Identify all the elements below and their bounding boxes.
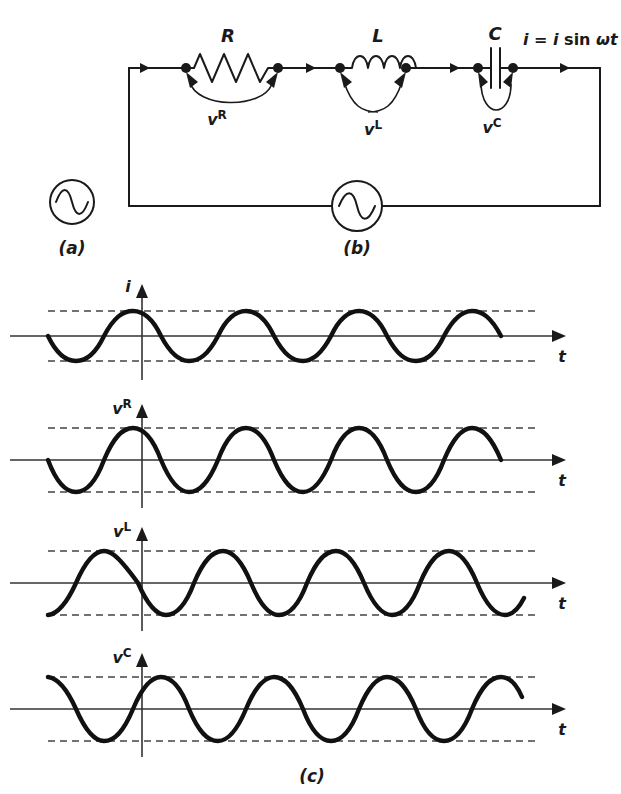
current-equation: i = i sin ωt <box>523 30 619 49</box>
plot-vr-x-label: t <box>558 471 567 490</box>
plot-vc-y-label-base: v <box>112 648 123 667</box>
current-arrow-4 <box>560 63 570 73</box>
ac-source-symbol <box>50 180 94 224</box>
plot-vc-y-label-sup: C <box>123 646 132 660</box>
vl-arc-left <box>344 82 378 112</box>
node-c-left <box>473 63 483 73</box>
figure-root: (a) <box>0 0 621 794</box>
resistor-component: R <box>186 25 278 82</box>
plot-vl-y-arrowhead <box>136 527 148 541</box>
equation-time: t <box>610 30 619 49</box>
plot-vl-y-label: vL <box>113 520 131 541</box>
plot-v-resistor: vR t <box>10 397 567 508</box>
panel-a-label: (a) <box>58 238 85 258</box>
plot-v-capacitor: vC t <box>10 646 567 757</box>
plot-vr-y-label-base: v <box>112 399 123 418</box>
vr-label-sup: R <box>218 108 227 122</box>
plot-current-y-arrowhead <box>136 284 148 298</box>
plot-vl-y-label-sup: L <box>123 520 131 534</box>
node-l-left <box>335 63 345 73</box>
node-r-left <box>181 63 191 73</box>
current-arrow-1 <box>140 63 150 73</box>
panel-c-label: (c) <box>299 766 325 786</box>
plot-vc-x-arrowhead <box>552 703 566 715</box>
vr-arrowhead-right <box>266 72 278 88</box>
plot-current-x-label: t <box>558 347 567 366</box>
plot-vr-y-arrowhead <box>136 404 148 418</box>
capacitor-label: C <box>488 23 502 44</box>
vc-label: vC <box>482 116 501 137</box>
vr-label-base: v <box>207 110 218 129</box>
plot-current-x-arrowhead <box>552 330 566 342</box>
equation-omega: ω <box>596 30 610 49</box>
plot-vl-x-label: t <box>558 594 567 613</box>
plot-current-y-label: i <box>125 277 131 296</box>
current-arrow-2 <box>306 63 316 73</box>
panel-b: R L C <box>129 23 619 258</box>
voltage-arc-vc: vC <box>478 72 513 137</box>
vc-label-sup: C <box>493 116 502 130</box>
plot-current: i t <box>10 277 567 380</box>
equation-equals: = <box>534 30 547 49</box>
vl-label: vL <box>364 118 382 139</box>
plot-vr-x-arrowhead <box>552 454 566 466</box>
voltage-arc-vr: vR <box>186 72 278 129</box>
plot-vl-x-arrowhead <box>552 577 566 589</box>
vl-label-sup: L <box>374 118 382 132</box>
inductor-component: L <box>340 25 416 68</box>
vr-label: vR <box>207 108 227 129</box>
vl-arrowhead-left <box>340 72 352 88</box>
plot-v-inductor: vL t <box>10 520 567 631</box>
voltage-arc-vl: vL <box>340 72 406 139</box>
plot-vr-y-label-sup: R <box>123 397 132 411</box>
inductor-label: L <box>372 25 383 46</box>
vc-arrowhead-left <box>478 72 488 88</box>
vl-arc-right <box>368 82 402 112</box>
plot-vc-y-label: vC <box>112 646 131 667</box>
node-l-right <box>401 63 411 73</box>
panel-a: (a) <box>50 180 94 258</box>
panel-c: i t vR t <box>10 277 567 786</box>
rlc-figure: (a) <box>0 0 621 794</box>
vr-arrowhead-left <box>186 72 198 88</box>
plot-vr-y-label: vR <box>112 397 132 418</box>
vc-arc <box>481 82 511 110</box>
vl-arrowhead-right <box>394 72 406 88</box>
current-arrow-3 <box>450 63 460 73</box>
vl-label-base: v <box>364 120 375 139</box>
vc-label-base: v <box>482 118 493 137</box>
plot-vl-y-label-base: v <box>113 522 124 541</box>
node-c-right <box>508 63 518 73</box>
circuit-ac-source <box>332 181 382 231</box>
resistor-label: R <box>221 25 235 46</box>
resistor-zigzag <box>186 54 278 82</box>
panel-b-label: (b) <box>343 238 371 258</box>
node-r-right <box>273 63 283 73</box>
plot-vc-x-label: t <box>558 720 567 739</box>
vr-arc <box>190 82 272 103</box>
equation-function: sin <box>564 30 590 49</box>
plot-vc-y-arrowhead <box>136 653 148 667</box>
